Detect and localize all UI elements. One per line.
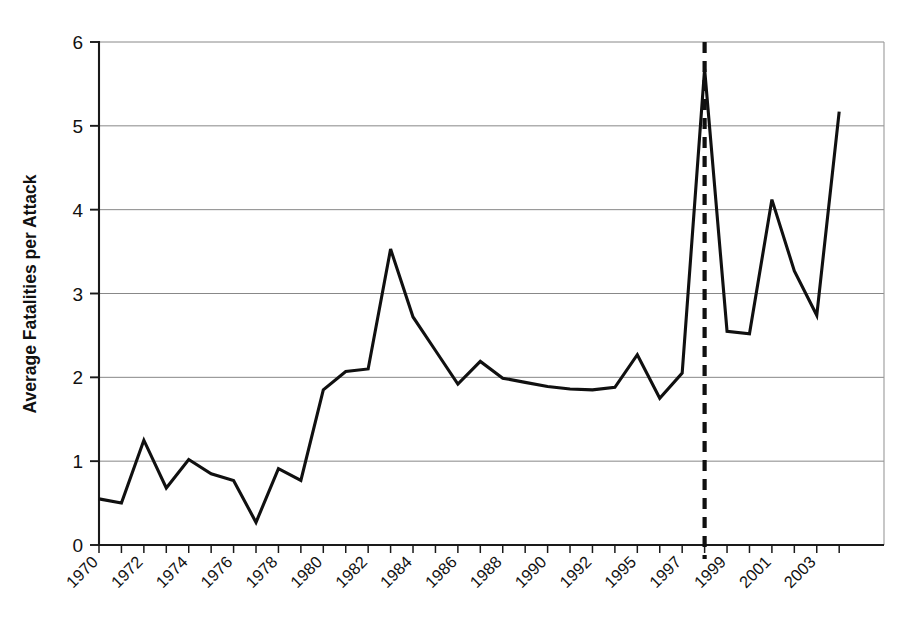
x-tick-label: 1986 [421, 552, 460, 591]
x-tick-label: 1980 [287, 552, 326, 591]
x-tick-label: 1997 [646, 552, 685, 591]
x-tick-label: 1984 [376, 552, 415, 591]
y-tick-label: 5 [72, 116, 83, 137]
x-axis-ticks [99, 545, 839, 553]
x-tick-label: 1990 [511, 552, 550, 591]
plot-border [98, 41, 884, 545]
x-tick-label: 2001 [735, 552, 774, 591]
x-tick-label: 1976 [197, 552, 236, 591]
y-tick-label: 6 [72, 32, 83, 53]
data-series-group [99, 69, 839, 523]
y-tick-label: 1 [72, 451, 83, 472]
x-tick-label: 1995 [601, 552, 640, 591]
gridlines-group [99, 42, 884, 461]
y-tick-label: 2 [72, 367, 83, 388]
y-tick-label: 4 [72, 200, 83, 221]
y-tick-label: 3 [72, 284, 83, 305]
x-tick-label: 1978 [242, 552, 281, 591]
x-tick-label: 1982 [332, 552, 371, 591]
y-tick-label: 0 [72, 535, 83, 556]
x-tick-label: 1970 [62, 552, 101, 591]
x-tick-label: 1972 [107, 552, 146, 591]
y-tick-labels: 0123456 [72, 32, 83, 556]
line-chart-plot: 0123456 19701972197419761978198019821984… [0, 0, 918, 631]
chart-container: Average Fatalities per Attack 0123456 19… [0, 0, 918, 631]
y-axis-ticks [90, 42, 99, 545]
x-tick-label: 1999 [690, 552, 729, 591]
series-line-fatalities-per-attack [99, 69, 839, 523]
x-tick-label: 1974 [152, 552, 191, 591]
x-tick-label: 2003 [780, 552, 819, 591]
x-tick-label: 1988 [466, 552, 505, 591]
x-tick-label: 1992 [556, 552, 595, 591]
